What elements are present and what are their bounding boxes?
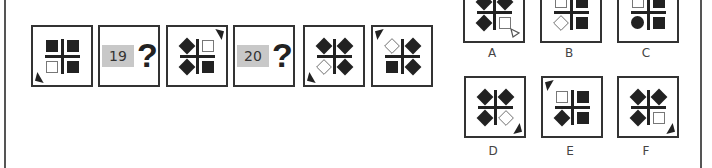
cross-vertical (493, 0, 496, 30)
sequence-figure-3 (166, 25, 228, 87)
filled-square-icon (202, 61, 214, 73)
filled-diamond-icon (497, 0, 514, 10)
option-f[interactable] (617, 76, 679, 138)
pointer-triangle-icon (307, 72, 318, 83)
filled-square-icon (653, 17, 665, 29)
filled-square-icon (577, 112, 589, 124)
open-diamond-icon (384, 38, 400, 54)
question-number: 19 (102, 45, 134, 67)
question-mark-icon: ? (272, 35, 293, 75)
open-square-icon (632, 0, 644, 8)
filled-diamond-icon (630, 110, 647, 127)
open-square-icon (202, 40, 214, 52)
filled-diamond-icon (477, 110, 494, 127)
pointer-triangle-icon (213, 29, 224, 40)
filled-square-icon (67, 61, 79, 73)
open-pointer-triangle-icon (510, 28, 520, 38)
filled-diamond-icon (630, 89, 647, 106)
question-20[interactable]: 20 ? (233, 25, 295, 87)
sequence-figure-6 (371, 25, 433, 87)
option-b-label: B (539, 46, 599, 60)
filled-square-icon (577, 91, 589, 103)
filled-diamond-icon (337, 38, 354, 55)
filled-square-icon (576, 0, 588, 8)
option-a-label: A (462, 46, 522, 60)
open-diamond-icon (553, 15, 569, 31)
cross-vertical (196, 39, 199, 74)
pointer-triangle-icon (375, 29, 386, 40)
cross-vertical (570, 0, 573, 30)
cross-vertical (647, 0, 650, 30)
option-d-label: D (463, 144, 523, 158)
filled-diamond-icon (476, 15, 493, 32)
cross-vertical (333, 39, 336, 74)
option-f-label: F (616, 144, 676, 158)
open-square-icon (556, 91, 568, 103)
pointer-triangle-icon (511, 123, 522, 134)
cross-vertical (401, 39, 404, 74)
open-square-icon (46, 61, 58, 73)
filled-square-icon (67, 40, 79, 52)
filled-square-icon (386, 61, 398, 73)
question-mark-icon: ? (137, 35, 158, 75)
filled-diamond-icon (179, 59, 196, 76)
option-b[interactable] (540, 0, 602, 43)
question-19[interactable]: 19 ? (98, 25, 160, 87)
filled-diamond-icon (498, 89, 515, 106)
question-number: 20 (237, 45, 269, 67)
pointer-triangle-icon (35, 72, 46, 83)
filled-square-icon (46, 40, 58, 52)
filled-diamond-icon (476, 0, 493, 10)
filled-diamond-icon (179, 38, 196, 55)
open-diamond-icon (498, 110, 514, 126)
filled-diamond-icon (651, 89, 668, 106)
pointer-triangle-icon (664, 123, 675, 134)
option-e-label: E (540, 144, 600, 158)
option-e[interactable] (541, 76, 603, 138)
filled-square-icon (576, 17, 588, 29)
sequence-figure-1 (31, 25, 93, 87)
filled-diamond-icon (477, 89, 494, 106)
right-divider (700, 0, 702, 168)
open-square-icon (653, 112, 665, 124)
open-diamond-icon (316, 59, 332, 75)
cross-vertical (647, 90, 650, 125)
option-c[interactable] (617, 0, 679, 43)
option-c-label: C (616, 46, 676, 60)
cross-vertical (61, 39, 64, 74)
option-a[interactable] (463, 0, 525, 43)
filled-diamond-icon (337, 59, 354, 76)
filled-square-icon (653, 0, 665, 8)
filled-diamond-icon (405, 59, 422, 76)
cross-vertical (571, 90, 574, 125)
left-divider (4, 0, 6, 168)
filled-diamond-icon (316, 38, 333, 55)
filled-diamond-icon (554, 110, 571, 127)
sequence-figure-5 (303, 25, 365, 87)
filled-circle-icon (631, 16, 644, 29)
open-square-icon (555, 0, 567, 8)
filled-diamond-icon (405, 38, 422, 55)
cross-vertical (494, 90, 497, 125)
pointer-triangle-icon (545, 80, 556, 91)
option-d[interactable] (464, 76, 526, 138)
